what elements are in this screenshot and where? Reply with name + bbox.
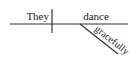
modifier-word: gracefully bbox=[93, 23, 130, 57]
subject-word: They bbox=[26, 10, 49, 22]
sentence-diagram: They dance gracefully bbox=[0, 0, 130, 59]
verb-word: dance bbox=[83, 10, 109, 22]
